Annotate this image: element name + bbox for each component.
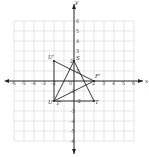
svg-text:-5: -5 [70, 128, 75, 134]
svg-text:-4: -4 [31, 80, 36, 86]
svg-text:6: 6 [132, 80, 135, 86]
label-s: S [76, 55, 80, 61]
label-u: U [48, 99, 53, 105]
label-u-prime: U' [48, 54, 54, 60]
x-axis-arrow-right-icon [138, 79, 143, 83]
svg-text:0: 0 [69, 80, 72, 86]
svg-text:3: 3 [102, 80, 105, 86]
svg-text:-5: -5 [21, 80, 26, 86]
y-axis-label: y [74, 0, 79, 6]
svg-text:-6: -6 [11, 80, 16, 86]
point-u [53, 100, 55, 102]
coordinate-plane: x y -6 -5 -4 -3 -2 0 2 3 4 5 6 6 5 4 3 2… [0, 0, 149, 158]
svg-text:3: 3 [76, 48, 79, 54]
svg-text:-3: -3 [41, 80, 46, 86]
svg-text:4: 4 [76, 38, 79, 44]
point-u-prime [53, 60, 55, 62]
svg-text:5: 5 [76, 28, 79, 34]
x-axis-label: x [145, 78, 149, 84]
svg-text:-3: -3 [70, 108, 75, 114]
label-t-prime: T' [56, 100, 61, 106]
svg-text:6: 6 [76, 18, 79, 24]
label-f-prime: F' [94, 73, 100, 79]
svg-text:-4: -4 [70, 118, 75, 124]
point-f-prime [93, 80, 95, 82]
label-t: T [95, 99, 99, 105]
svg-text:5: 5 [122, 80, 125, 86]
x-axis-arrow-left-icon [4, 79, 9, 83]
point-s [73, 60, 75, 62]
svg-text:-6: -6 [70, 138, 75, 144]
svg-text:-2: -2 [51, 80, 56, 86]
y-axis-arrow-down-icon [72, 149, 76, 154]
svg-text:4: 4 [112, 80, 115, 86]
